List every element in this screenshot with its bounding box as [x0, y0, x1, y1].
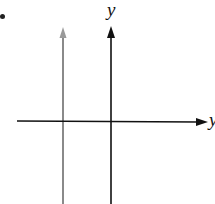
coordinate-diagram — [0, 0, 215, 204]
y-arrowhead-icon — [107, 26, 115, 38]
gray-vertical-line — [60, 27, 67, 204]
x-axis — [17, 118, 208, 126]
gray-arrowhead-icon — [60, 27, 67, 38]
y-axis — [107, 26, 115, 204]
x-arrowhead-icon — [196, 118, 208, 126]
